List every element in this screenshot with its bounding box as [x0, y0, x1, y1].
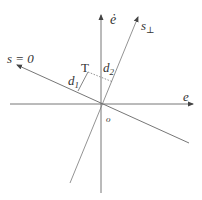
origin-label: o: [106, 114, 111, 124]
d2-label: d2: [103, 60, 115, 77]
t-point-label: T: [81, 60, 89, 75]
s-perp-label: s⊥: [141, 18, 155, 35]
phase-plane-diagram: ė s⊥ s = 0 T d1 d2 e o: [0, 0, 202, 200]
d1-label: d1: [68, 73, 79, 90]
s-zero-label: s = 0: [7, 51, 34, 66]
e-dot-label: ė: [110, 12, 116, 27]
e-label: e: [183, 89, 189, 104]
s-perp-line: [70, 17, 138, 183]
